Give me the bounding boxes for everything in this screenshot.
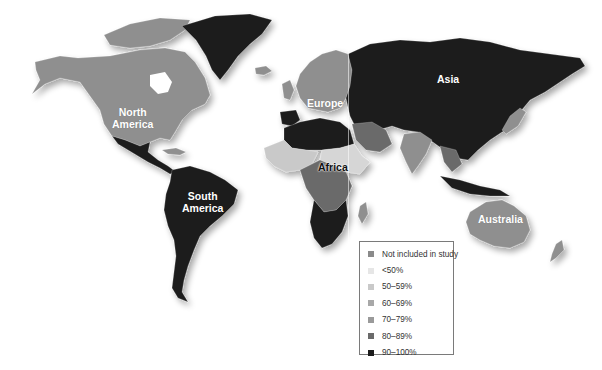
south-america-shape — [164, 166, 238, 302]
legend-label: 90–100% — [382, 348, 417, 357]
madagascar-shape — [358, 202, 368, 224]
legend-item-50-59: 50–59% — [368, 279, 453, 295]
label-north-america-line2: America — [112, 118, 153, 130]
new-zealand-shape — [550, 240, 564, 262]
label-north-america-line1: North — [112, 106, 153, 118]
uk-shape — [282, 80, 294, 100]
legend-item-not-included: Not included in study — [368, 246, 453, 262]
canada-arctic-islands — [104, 18, 190, 48]
legend-item-90-100: 90–100% — [368, 344, 453, 360]
india-shape — [400, 132, 432, 174]
legend-item-60-69: 60–69% — [368, 295, 453, 311]
label-south-america-line2: America — [182, 202, 223, 214]
legend-swatch — [368, 350, 374, 356]
label-asia: Asia — [437, 73, 459, 85]
legend-label: 50–59% — [382, 282, 412, 291]
label-south-america-line1: South — [182, 190, 223, 202]
legend-swatch — [368, 251, 374, 257]
caribbean-shape — [162, 148, 186, 155]
map-seam — [348, 40, 349, 300]
label-europe: Europe — [307, 97, 343, 109]
legend-swatch — [368, 317, 374, 323]
map-legend: Not included in study <50% 50–59% 60–69%… — [359, 241, 454, 355]
world-map: North America South America Europe Afric… — [0, 0, 602, 370]
legend-swatch — [368, 268, 374, 274]
legend-label: 70–79% — [382, 315, 412, 324]
label-europe-text: Europe — [307, 97, 343, 109]
label-australia: Australia — [478, 213, 523, 225]
map-canvas — [0, 0, 602, 370]
label-south-america: South America — [182, 190, 223, 214]
label-africa-text: Africa — [318, 161, 348, 173]
legend-label: <50% — [382, 266, 403, 275]
north-america-shape — [32, 48, 210, 146]
legend-item-lt50: <50% — [368, 262, 453, 278]
iceland-shape — [255, 66, 272, 75]
label-asia-text: Asia — [437, 73, 459, 85]
label-australia-text: Australia — [478, 213, 523, 225]
legend-swatch — [368, 333, 374, 339]
label-north-america: North America — [112, 106, 153, 130]
legend-label: Not included in study — [382, 250, 458, 259]
legend-swatch — [368, 300, 374, 306]
legend-label: 60–69% — [382, 299, 412, 308]
legend-item-80-89: 80–89% — [368, 328, 453, 344]
legend-item-70-79: 70–79% — [368, 312, 453, 328]
legend-label: 80–89% — [382, 332, 412, 341]
southeast-asia-shape — [440, 176, 510, 196]
label-africa: Africa — [318, 161, 348, 173]
legend-swatch — [368, 284, 374, 290]
